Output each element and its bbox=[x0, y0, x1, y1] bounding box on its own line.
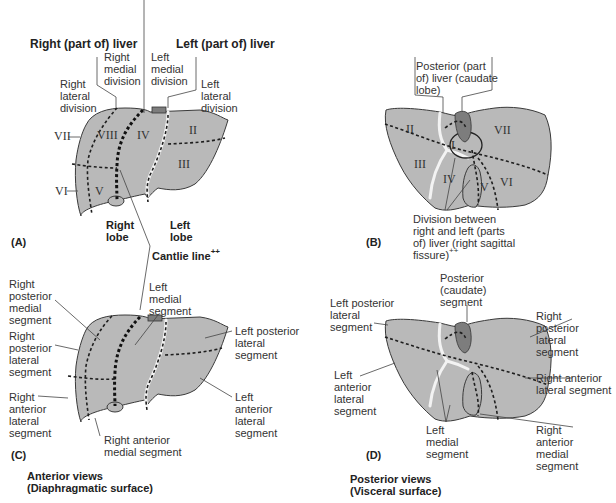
segment-VII-b: VII bbox=[494, 123, 511, 138]
left-posterior-lateral-segment-label-c: Left posterior lateral segment bbox=[235, 325, 299, 361]
right-anterior-medial-segment-label-d: Right anterior medial segment bbox=[536, 424, 578, 472]
right-posterior-lateral-segment-label: Right posterior lateral segment bbox=[9, 330, 52, 378]
panel-c-liver bbox=[38, 300, 232, 436]
segment-III-a: III bbox=[178, 157, 190, 172]
cantlie-footnote-mark: ++ bbox=[211, 247, 220, 256]
segment-II-a: II bbox=[189, 123, 197, 138]
right-lobe-label: Right lobe bbox=[106, 219, 134, 243]
segment-VI-a: VI bbox=[55, 184, 68, 199]
segment-III-b: III bbox=[414, 157, 426, 172]
liver-segments-illustration: .liver { fill:#b9b9b9; stroke:#3a3a3a; s… bbox=[0, 0, 616, 503]
left-medial-segment-label-c: Left medial segment bbox=[149, 281, 191, 317]
segment-IV-a: IV bbox=[137, 128, 150, 143]
panel-c-label: (C) bbox=[11, 449, 26, 461]
posterior-caudate-lobe-label: Posterior (part of) liver (caudate lobe) bbox=[416, 60, 498, 96]
right-lateral-division-label: Right lateral division bbox=[60, 78, 97, 114]
right-liver-heading: Right (part of) liver bbox=[30, 38, 137, 51]
segment-V-a: V bbox=[95, 184, 104, 199]
segment-V-b: V bbox=[480, 180, 489, 195]
left-medial-division-label: Left medial division bbox=[151, 51, 188, 87]
segment-I-b: I bbox=[451, 138, 455, 153]
left-liver-heading: Left (part of) liver bbox=[176, 38, 275, 51]
segment-VII-a: VII bbox=[54, 129, 71, 144]
panel-d-label: (D) bbox=[366, 449, 381, 461]
right-sagittal-fissure-label: Division between right and left (parts o… bbox=[413, 213, 515, 261]
left-medial-segment-label-d: Left medial segment bbox=[426, 424, 468, 460]
posterior-views-caption: Posterior views (Visceral surface) bbox=[350, 473, 442, 497]
right-anterior-lateral-segment-label-d: Right anterior lateral segment bbox=[536, 372, 611, 396]
segment-VI-b: VI bbox=[500, 175, 513, 190]
segment-VIII-a: VIII bbox=[97, 128, 118, 143]
segment-IV-b: IV bbox=[443, 172, 456, 187]
left-lobe-label: Left lobe bbox=[170, 219, 193, 243]
panel-b-label: (B) bbox=[366, 236, 381, 248]
right-posterior-medial-segment-label: Right posterior medial segment bbox=[9, 278, 52, 326]
fissure-footnote-mark: ++ bbox=[449, 246, 458, 255]
panel-a-label: (A) bbox=[11, 236, 26, 248]
cantlie-line-text: Cantlie line bbox=[152, 250, 211, 262]
anterior-views-caption: Anterior views (Diaphragmatic surface) bbox=[27, 470, 153, 494]
right-posterior-lateral-segment-label-d: Right posterior lateral segment bbox=[536, 310, 579, 358]
right-anterior-lateral-segment-label: Right anterior lateral segment bbox=[9, 391, 51, 439]
cantlie-line-label: Cantlie line++ bbox=[152, 250, 220, 262]
left-lateral-division-label: Left lateral division bbox=[201, 78, 238, 114]
segment-II-b: II bbox=[406, 122, 414, 137]
left-posterior-lateral-segment-label-d: Left posterior lateral segment bbox=[330, 297, 394, 333]
posterior-caudate-segment-label: Posterior (caudate) segment bbox=[440, 272, 486, 308]
right-sagittal-fissure-text: Division between right and left (parts o… bbox=[413, 213, 515, 261]
right-medial-division-label: Right medial division bbox=[104, 51, 141, 87]
right-anterior-medial-segment-label: Right anterior medial segment bbox=[104, 434, 182, 458]
left-anterior-lateral-segment-label-c: Left anterior lateral segment bbox=[235, 391, 277, 439]
left-anterior-lateral-segment-label-d: Left anterior lateral segment bbox=[334, 369, 376, 417]
